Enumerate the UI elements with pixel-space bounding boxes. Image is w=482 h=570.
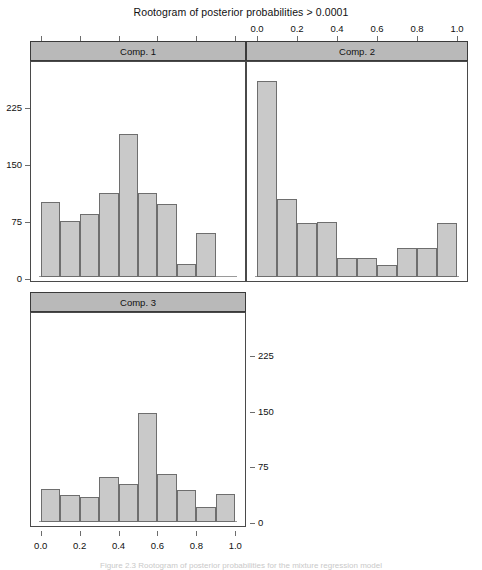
- histogram-bar: [297, 223, 317, 277]
- histogram-bar: [437, 223, 457, 277]
- histogram-bar: [216, 494, 235, 522]
- bottom-axis-tick: [119, 531, 120, 536]
- plot-area-comp1: [31, 62, 245, 281]
- histogram-bar: [397, 248, 417, 277]
- histogram-bar: [41, 489, 60, 522]
- left-axis-tick-label: 75: [11, 216, 22, 227]
- strip-label-comp1: Comp. 1: [120, 46, 156, 57]
- histogram-bar: [317, 222, 337, 277]
- histogram-bar: [99, 477, 118, 522]
- histogram-bar: [60, 221, 79, 277]
- strip-comp3: Comp. 3: [30, 292, 246, 312]
- bottom-axis-tick: [157, 531, 158, 536]
- histogram-bar: [119, 484, 138, 522]
- bottom-axis-tick-label: 1.0: [229, 540, 242, 551]
- histogram-bar: [196, 507, 215, 522]
- right-axis-tick-label: 0: [258, 517, 263, 528]
- top-axis-tick-label: 0.6: [370, 23, 383, 34]
- top-axis-tick-label: 0.2: [290, 23, 303, 34]
- histogram-bar: [377, 265, 397, 277]
- left-axis-tick-label: 225: [6, 102, 22, 113]
- bottom-axis-tick-label: 0.4: [112, 540, 125, 551]
- histogram-bar: [99, 193, 118, 277]
- bottom-axis-tick: [41, 531, 42, 536]
- histogram-bar: [119, 134, 138, 277]
- histogram-bar: [417, 248, 437, 277]
- plot-area-comp2: [247, 62, 467, 281]
- left-axis-tick-label: 150: [6, 159, 22, 170]
- histogram-bar: [138, 413, 157, 522]
- histogram-bar: [196, 233, 215, 277]
- figure-title: Rootogram of posterior probabilities > 0…: [0, 6, 482, 18]
- top-axis-tick-label: 0.0: [250, 23, 263, 34]
- strip-comp2: Comp. 2: [246, 41, 468, 61]
- histogram-bar: [80, 214, 99, 277]
- bottom-axis-tick-label: 0.2: [73, 540, 86, 551]
- top-axis-tick-label: 0.4: [330, 23, 343, 34]
- histogram-bar: [277, 199, 297, 277]
- strip-comp1: Comp. 1: [30, 41, 246, 61]
- right-axis-tick: [250, 356, 255, 357]
- histogram-bar: [177, 490, 196, 522]
- histogram-bar: [337, 258, 357, 277]
- right-axis-tick: [250, 523, 255, 524]
- top-axis-tick-label: 0.8: [410, 23, 423, 34]
- right-axis-tick-label: 75: [258, 461, 269, 472]
- right-axis-tick: [250, 412, 255, 413]
- histogram-bar: [41, 202, 60, 277]
- strip-label-comp2: Comp. 2: [339, 46, 375, 57]
- histogram-bar: [80, 497, 99, 522]
- histogram-bar: [138, 193, 157, 277]
- figure-caption: Figure 2.3 Rootogram of posterior probab…: [0, 561, 482, 570]
- top-axis-tick-label: 1.0: [450, 23, 463, 34]
- right-axis-tick-label: 150: [258, 406, 274, 417]
- histogram-bar: [357, 258, 377, 277]
- histogram-bar: [177, 264, 196, 277]
- histogram-bar: [60, 495, 79, 522]
- histogram-bar: [157, 474, 176, 522]
- bottom-axis-tick: [235, 531, 236, 536]
- bottom-axis-tick-label: 0.6: [151, 540, 164, 551]
- right-axis-tick: [250, 467, 255, 468]
- bottom-axis-tick: [80, 531, 81, 536]
- bottom-axis-tick-label: 0.0: [34, 540, 47, 551]
- histogram-bar: [157, 204, 176, 277]
- strip-label-comp3: Comp. 3: [120, 297, 156, 308]
- right-axis-tick-label: 225: [258, 350, 274, 361]
- bottom-axis-tick: [196, 531, 197, 536]
- bottom-axis-tick-label: 0.8: [190, 540, 203, 551]
- plot-area-comp3: [31, 313, 245, 526]
- left-axis-tick-label: 0: [17, 273, 22, 284]
- histogram-bar: [257, 81, 277, 277]
